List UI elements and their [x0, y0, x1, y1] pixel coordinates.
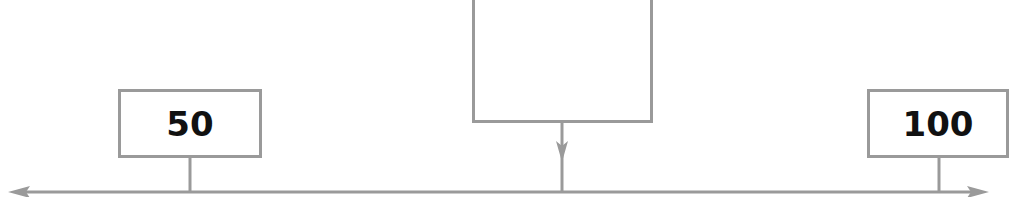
right-value-box: 100 [867, 89, 1009, 158]
left-value-box: 50 [118, 89, 262, 158]
right-value-label: 100 [903, 104, 974, 144]
unknown-value-box[interactable] [472, 0, 653, 123]
left-value-label: 50 [166, 104, 213, 144]
